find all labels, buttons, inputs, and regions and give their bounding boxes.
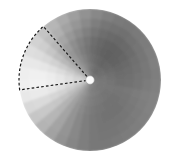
heat-cell [77, 141, 91, 152]
figure-root [0, 0, 175, 164]
origin-dot-marker [86, 76, 95, 85]
polar-heatmap-canvas [0, 0, 175, 164]
heat-cell [89, 8, 103, 19]
heat-cell [151, 79, 162, 93]
